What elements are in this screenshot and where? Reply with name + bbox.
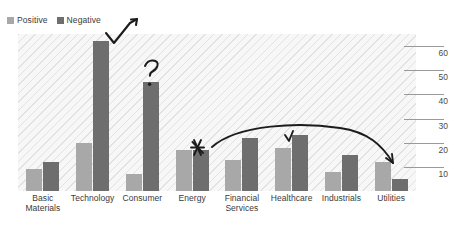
x-axis-label: Consumer — [118, 193, 168, 213]
legend-item-negative[interactable]: Negative — [57, 16, 101, 25]
x-axis-label: Utilities — [366, 193, 416, 213]
bar-group — [217, 34, 267, 191]
y-axis-tick-50: 50 — [439, 73, 448, 82]
bar-positive[interactable] — [26, 169, 42, 191]
bar-groups — [18, 34, 416, 191]
x-axis-label: Healthcare — [267, 193, 317, 213]
y-axis-tick-20: 20 — [439, 146, 448, 155]
y-axis-tick-30: 30 — [439, 122, 448, 131]
bar-group — [18, 34, 68, 191]
x-axis-label: Technology — [68, 193, 118, 213]
y-axis-tick-60: 60 — [439, 49, 448, 58]
legend-label-negative: Negative — [67, 16, 101, 25]
bar-positive[interactable] — [325, 172, 341, 191]
bar-positive[interactable] — [176, 150, 192, 191]
x-axis-label: BasicMaterials — [18, 193, 68, 213]
bar-group — [118, 34, 168, 191]
bar-positive[interactable] — [225, 160, 241, 191]
bar-negative[interactable] — [292, 135, 308, 191]
bar-positive[interactable] — [375, 162, 391, 191]
bar-group — [317, 34, 367, 191]
bar-negative[interactable] — [242, 138, 258, 191]
bar-negative[interactable] — [93, 41, 109, 191]
bar-negative[interactable] — [43, 162, 59, 191]
chart-legend: Positive Negative — [7, 14, 101, 26]
x-axis-categories: BasicMaterialsTechnologyConsumerEnergyFi… — [18, 193, 416, 213]
chart-root: Positive Negative 102030405060 BasicMate… — [0, 0, 454, 225]
x-axis-label: Energy — [167, 193, 217, 213]
y-axis-tick-40: 40 — [439, 97, 448, 106]
bar-group — [366, 34, 416, 191]
bar-positive[interactable] — [76, 143, 92, 191]
x-axis-label: FinancialServices — [217, 193, 267, 213]
bar-group — [68, 34, 118, 191]
bar-group — [267, 34, 317, 191]
bar-negative[interactable] — [193, 150, 209, 191]
legend-label-positive: Positive — [17, 16, 48, 25]
bar-negative[interactable] — [143, 82, 159, 191]
bar-positive[interactable] — [275, 148, 291, 191]
legend-swatch-negative — [57, 17, 64, 24]
bar-negative[interactable] — [392, 179, 408, 191]
bar-group — [167, 34, 217, 191]
y-axis-tick-10: 10 — [439, 170, 448, 179]
bar-negative[interactable] — [342, 155, 358, 191]
legend-swatch-positive — [7, 17, 14, 24]
bar-positive[interactable] — [126, 174, 142, 191]
x-axis-label: Industrials — [317, 193, 367, 213]
legend-item-positive[interactable]: Positive — [7, 16, 48, 25]
